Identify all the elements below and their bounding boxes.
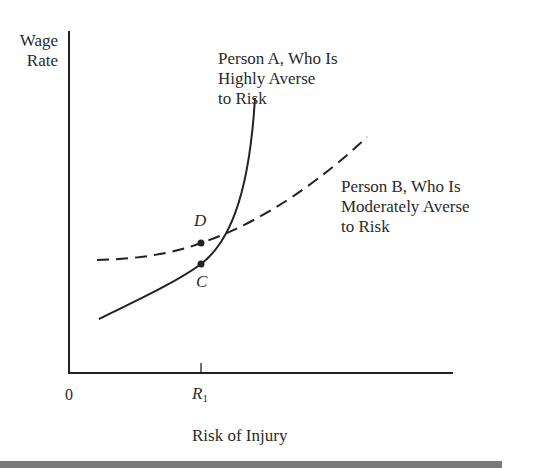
person-b-curve bbox=[97, 137, 367, 260]
r1-tick-label-sub: 1 bbox=[202, 392, 208, 404]
person-b-label-line3: to Risk bbox=[341, 217, 470, 237]
point-d-label: D bbox=[194, 211, 206, 231]
person-a-label-line2: Highly Averse bbox=[218, 69, 338, 89]
y-axis-label-line1: Wage bbox=[6, 31, 58, 51]
person-b-label-line1: Person B, Who Is bbox=[341, 177, 470, 197]
person-a-label: Person A, Who Is Highly Averse to Risk bbox=[218, 49, 338, 109]
r1-tick-label: R1 bbox=[192, 384, 208, 408]
person-a-label-line3: to Risk bbox=[218, 89, 338, 109]
point-d-marker bbox=[198, 240, 205, 247]
r1-tick-label-main: R bbox=[192, 384, 202, 403]
origin-label: 0 bbox=[65, 385, 73, 405]
y-axis-label-line2: Rate bbox=[6, 51, 58, 71]
person-a-curve bbox=[99, 98, 255, 319]
point-c-marker bbox=[198, 261, 205, 268]
person-a-label-line1: Person A, Who Is bbox=[218, 49, 338, 69]
y-axis-label: Wage Rate bbox=[6, 31, 58, 71]
person-b-label: Person B, Who Is Moderately Averse to Ri… bbox=[341, 177, 470, 237]
x-axis-label: Risk of Injury bbox=[192, 426, 287, 446]
point-c-label: C bbox=[196, 272, 207, 292]
bottom-divider bbox=[0, 461, 502, 468]
person-b-label-line2: Moderately Averse bbox=[341, 197, 470, 217]
